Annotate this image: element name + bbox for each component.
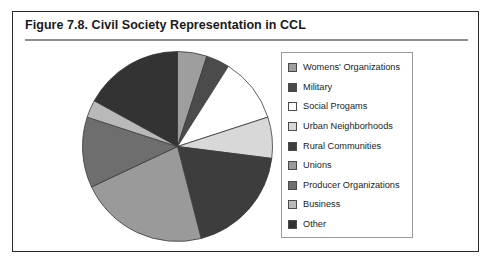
legend-item: Military — [282, 78, 412, 98]
legend-swatch-icon — [288, 102, 297, 111]
figure-title: Figure 7.8. Civil Society Representation… — [25, 18, 306, 32]
legend-item: Unions — [282, 156, 412, 176]
legend-item-label: Producer Organizations — [303, 181, 400, 190]
legend-item-label: Womens' Organizations — [303, 63, 400, 72]
legend-swatch-icon — [288, 181, 297, 190]
legend-item: Womens' Organizations — [282, 58, 412, 78]
plot-area: Womens' OrganizationsMilitarySocial Prog… — [25, 45, 468, 248]
legend-swatch-icon — [288, 220, 297, 229]
legend-item: Rural Communities — [282, 136, 412, 156]
pie-chart-svg — [81, 50, 274, 243]
legend-swatch-icon — [288, 161, 297, 170]
pie-chart — [81, 50, 274, 243]
legend-swatch-icon — [288, 122, 297, 131]
legend-item-label: Rural Communities — [303, 142, 381, 151]
title-divider — [25, 39, 468, 41]
legend-swatch-icon — [288, 63, 297, 72]
legend-swatch-icon — [288, 142, 297, 151]
legend-item: Business — [282, 195, 412, 215]
legend-item: Social Progams — [282, 97, 412, 117]
legend-swatch-icon — [288, 83, 297, 92]
legend-swatch-icon — [288, 200, 297, 209]
legend-item-label: Military — [303, 83, 332, 92]
legend-item: Urban Neighborhoods — [282, 117, 412, 137]
legend-item: Other — [282, 215, 412, 235]
legend-item-label: Unions — [303, 161, 332, 170]
legend-item-label: Urban Neighborhoods — [303, 122, 393, 131]
legend: Womens' OrganizationsMilitarySocial Prog… — [281, 52, 413, 238]
legend-item-label: Social Progams — [303, 102, 367, 111]
legend-item-label: Business — [303, 200, 340, 209]
legend-item: Producer Organizations — [282, 176, 412, 196]
legend-item-label: Other — [303, 220, 326, 229]
figure-container: Figure 7.8. Civil Society Representation… — [0, 0, 491, 266]
